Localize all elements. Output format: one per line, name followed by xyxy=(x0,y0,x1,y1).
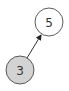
node-3[interactable]: 3 xyxy=(6,56,34,84)
node-5-label: 5 xyxy=(45,16,53,30)
node-3-label: 3 xyxy=(16,64,24,78)
node-5[interactable]: 5 xyxy=(35,8,63,36)
edge-3-to-5 xyxy=(27,35,41,58)
tree-diagram: 5 3 xyxy=(0,0,69,91)
